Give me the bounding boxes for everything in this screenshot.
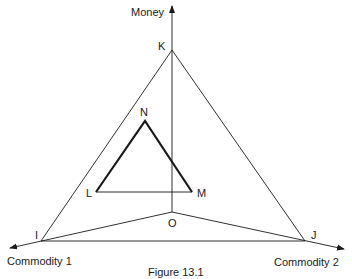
commodity-2-axis (172, 212, 344, 249)
commodity-2-label: Commodity 2 (274, 256, 339, 268)
point-i-label: I (35, 229, 38, 241)
point-l-label: L (86, 187, 92, 199)
point-o-label: O (168, 217, 177, 229)
commodity-1-label: Commodity 1 (7, 255, 72, 267)
point-k-label: K (158, 40, 165, 52)
point-m-label: M (197, 187, 206, 199)
figure-caption: Figure 13.1 (148, 266, 204, 278)
point-n-label: N (140, 106, 148, 118)
inner-triangle-lmn-sides (96, 121, 192, 192)
point-j-label: J (311, 229, 317, 241)
diagram-canvas (0, 0, 352, 279)
money-axis-label: Money (131, 6, 164, 18)
